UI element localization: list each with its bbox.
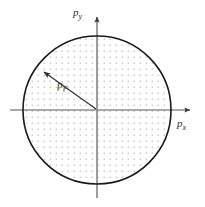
fermi-sphere-figure: py px pF [0,0,205,207]
fermi-momentum-label: pF [57,78,68,94]
fermi-momentum-label-subscript: F [62,84,67,93]
y-axis-label: py [73,6,82,21]
y-axis-label-subscript: y [79,12,83,21]
x-axis-label-subscript: x [183,123,187,132]
x-axis-label: px [177,117,186,132]
fermi-sphere-svg [0,0,205,207]
